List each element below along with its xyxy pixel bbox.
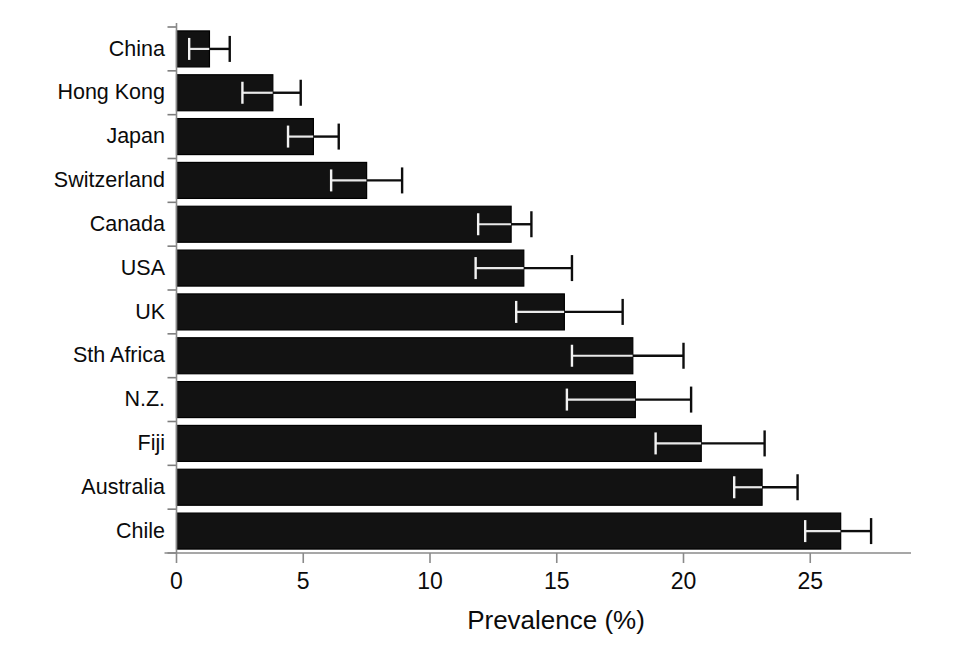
bar bbox=[177, 513, 841, 549]
x-tick-label: 15 bbox=[544, 568, 570, 594]
category-label: USA bbox=[121, 256, 166, 280]
category-label: China bbox=[109, 37, 165, 61]
bar bbox=[177, 206, 512, 242]
category-label: Sth Africa bbox=[73, 343, 165, 367]
x-tick-label: 5 bbox=[297, 568, 310, 594]
bar bbox=[177, 469, 763, 505]
x-tick-label: 20 bbox=[671, 568, 697, 594]
prevalence-bar-chart: ChinaHong KongJapanSwitzerlandCanadaUSAU… bbox=[0, 0, 959, 659]
category-label: Japan bbox=[106, 124, 165, 148]
category-label: Hong Kong bbox=[57, 80, 165, 104]
chart-canvas: ChinaHong KongJapanSwitzerlandCanadaUSAU… bbox=[0, 0, 959, 659]
category-label: Australia bbox=[81, 475, 165, 499]
x-tick-label: 0 bbox=[170, 568, 183, 594]
bar bbox=[177, 338, 633, 374]
bar bbox=[177, 425, 702, 461]
x-axis-title: Prevalence (%) bbox=[467, 605, 645, 635]
category-label: UK bbox=[135, 300, 166, 324]
category-label: Chile bbox=[116, 519, 165, 543]
category-label: N.Z. bbox=[124, 387, 165, 411]
category-label: Switzerland bbox=[54, 168, 165, 192]
bar bbox=[177, 294, 565, 330]
x-tick-label: 25 bbox=[797, 568, 823, 594]
category-label: Canada bbox=[90, 212, 165, 236]
x-tick-label: 10 bbox=[417, 568, 443, 594]
bar bbox=[177, 250, 524, 286]
category-label: Fiji bbox=[138, 431, 165, 455]
